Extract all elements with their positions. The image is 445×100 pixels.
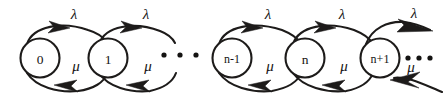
- state-node-n-plus-1-label: n+1: [371, 52, 390, 66]
- mid-ellipsis: [161, 52, 198, 57]
- markov-chain-diagram: λ μ λ μ λ μ: [0, 0, 445, 100]
- mid-ellipsis-dot-2: [177, 52, 182, 57]
- state-node-0-label: 0: [37, 52, 44, 67]
- rate-label-lambda-nminus1-n: λ: [264, 6, 272, 22]
- rate-label-mu-open-right: μ: [406, 59, 415, 75]
- state-node-n-label: n: [302, 52, 309, 67]
- right-ellipsis: [405, 55, 432, 60]
- right-ellipsis-dot-1: [405, 55, 410, 60]
- state-node-1[interactable]: 1: [89, 39, 128, 78]
- rate-label-lambda-0-1: λ: [70, 6, 78, 22]
- rate-label-lambda-n-nplus1: λ: [338, 6, 346, 22]
- state-node-n-minus-1-label: n-1: [224, 52, 240, 66]
- state-node-n-minus-1[interactable]: n-1: [213, 39, 252, 78]
- rate-label-mu-n-nminus1: μ: [265, 58, 274, 74]
- rate-label-mu-2-1: μ: [143, 58, 152, 74]
- state-node-n[interactable]: n: [286, 39, 325, 78]
- mid-ellipsis-dot-1: [161, 52, 166, 57]
- mid-ellipsis-dot-3: [193, 52, 198, 57]
- rate-label-mu-nplus1-n: μ: [339, 58, 348, 74]
- rate-label-lambda-open-right: λ: [410, 5, 418, 21]
- arrowhead-left-open: [390, 72, 420, 88]
- state-node-0[interactable]: 0: [21, 39, 60, 78]
- rate-label-lambda-1-2: λ: [142, 6, 150, 22]
- right-ellipsis-dot-3: [427, 55, 432, 60]
- right-ellipsis-dot-2: [416, 55, 421, 60]
- state-node-n-plus-1[interactable]: n+1: [361, 39, 400, 78]
- state-node-1-label: 1: [105, 52, 112, 67]
- rate-label-mu-1-0: μ: [71, 58, 80, 74]
- state-transition-canvas: λ μ λ μ λ μ: [0, 0, 445, 100]
